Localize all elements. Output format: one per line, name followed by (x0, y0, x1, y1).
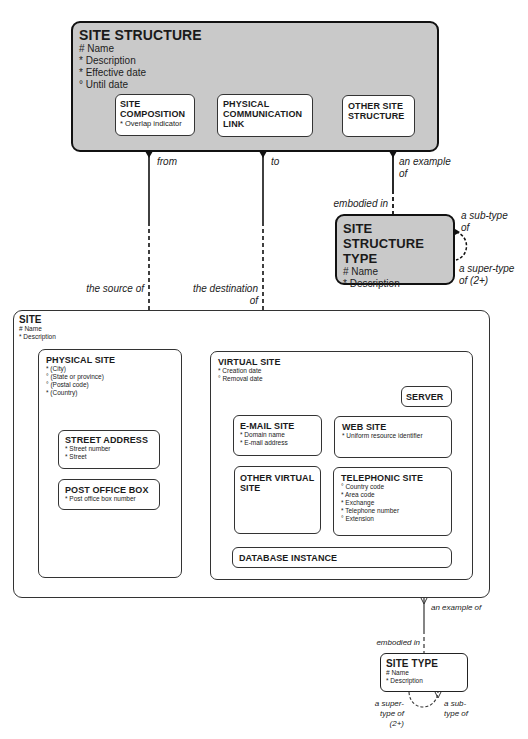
entity-email-site[interactable]: E-MAIL SITE * Domain name * E-mail addre… (233, 415, 322, 456)
label-sub-type-of: a sub-type of (461, 210, 509, 234)
entity-web-site[interactable]: WEB SITE * Uniform resource identifier (334, 416, 452, 458)
label-embodied-in-bottom: embodied in (360, 638, 420, 648)
entity-title: SITE STRUCTURE (79, 28, 431, 43)
entity-site-structure-type[interactable]: SITE STRUCTURE TYPE # Name * Description (335, 214, 455, 285)
entity-street-address[interactable]: STREET ADDRESS * Street number * Street (58, 430, 160, 469)
entity-title: SITE TYPE (386, 658, 462, 669)
entity-title: PHYSICAL SITE (46, 355, 174, 365)
attribute: ° Removal date (218, 375, 465, 383)
attribute: * Description (343, 278, 447, 290)
attribute: * Domain name (240, 431, 315, 439)
attribute: * Area code (341, 491, 444, 499)
attribute: * Post office box number (65, 495, 153, 503)
entity-title: TELEPHONIC SITE (341, 473, 444, 483)
label-the-source-of: the source of (84, 283, 144, 295)
entity-database-instance[interactable]: DATABASE INSTANCE (232, 547, 452, 568)
attribute: ° Country code (341, 483, 444, 491)
attribute: * Street (65, 453, 153, 461)
entity-other-virtual-site[interactable]: OTHER VIRTUAL SITE (234, 466, 321, 534)
label-embodied-in: embodied in (318, 198, 388, 210)
attribute: * Creation date (218, 367, 465, 375)
attribute: * Uniform resource identifier (342, 432, 444, 440)
entity-physical-communication-link[interactable]: PHYSICAL COMMUNICATION LINK (217, 94, 313, 137)
attribute: * Street number (65, 445, 153, 453)
attribute: * E-mail address (240, 439, 315, 447)
entity-title: WEB SITE (342, 422, 444, 432)
attribute: # Name (19, 325, 484, 333)
label-sub-type-of-bottom: a sub-type of (444, 699, 476, 719)
attribute: * Description (79, 55, 431, 67)
entity-title: POST OFFICE BOX (65, 485, 153, 495)
attribute: ° (State or province) (46, 373, 174, 381)
attribute: * Telephone number (341, 507, 444, 515)
entity-site-composition[interactable]: SITE COMPOSITION * Overlap indicator (115, 94, 195, 136)
entity-title: STREET ADDRESS (65, 435, 153, 445)
attribute: # Name (79, 43, 431, 55)
entity-title: SERVER (406, 392, 447, 402)
attribute: * Description (19, 333, 484, 341)
entity-site-type[interactable]: SITE TYPE # Name * Description (380, 653, 468, 692)
label-super-type-of-bottom: a super-type of (2+) (366, 699, 404, 729)
attribute: * (City) (46, 365, 174, 373)
entity-title: OTHER SITE STRUCTURE (348, 101, 409, 121)
attribute: * Effective date (79, 67, 431, 79)
entity-title: E-MAIL SITE (240, 421, 315, 431)
entity-title: SITE STRUCTURE TYPE (343, 221, 447, 266)
attribute: ° Extension (341, 515, 444, 523)
entity-other-site-structure[interactable]: OTHER SITE STRUCTURE (342, 95, 415, 137)
attribute: # Name (386, 669, 462, 677)
label-an-example-of: an example of (399, 156, 459, 180)
attribute: * (Country) (46, 389, 174, 397)
attribute: * Description (386, 677, 462, 685)
entity-telephonic-site[interactable]: TELEPHONIC SITE ° Country code * Area co… (333, 467, 452, 536)
entity-title: OTHER VIRTUAL SITE (240, 473, 315, 493)
entity-server[interactable]: SERVER (401, 386, 452, 407)
label-super-type-of: a super-type of (2+) (459, 263, 525, 287)
attribute: # Name (343, 266, 447, 278)
label-to: to (271, 156, 279, 168)
label-an-example-of-bottom: an example of (431, 603, 511, 613)
attribute: ° (Postal code) (46, 381, 174, 389)
attribute: * Exchange (341, 499, 444, 507)
attribute: * Overlap indicator (120, 119, 190, 128)
entity-post-office-box[interactable]: POST OFFICE BOX * Post office box number (58, 479, 160, 510)
label-from: from (157, 156, 177, 168)
entity-title: SITE COMPOSITION (120, 99, 190, 119)
label-the-destination-of: the destination of (188, 283, 258, 307)
entity-title: SITE (19, 314, 484, 325)
entity-title: DATABASE INSTANCE (239, 553, 445, 563)
entity-title: PHYSICAL COMMUNICATION LINK (223, 99, 307, 129)
entity-title: VIRTUAL SITE (218, 357, 465, 367)
attribute: ° Until date (79, 79, 431, 91)
